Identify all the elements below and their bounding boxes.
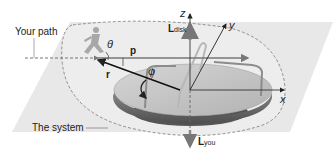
x-axis-label: x	[280, 94, 286, 105]
theta-label: θ	[107, 39, 113, 50]
angular-momentum-diagram: Your path The system θ φ p r Ldisk Lyou …	[0, 0, 333, 154]
phi-label: φ	[148, 66, 155, 77]
L-you-label: Lyou	[198, 137, 215, 147]
L-disk-sub: disk	[174, 26, 186, 33]
r-vector-label: r	[106, 70, 110, 80]
y-axis-label: y	[229, 20, 235, 31]
your-path-label: Your path	[15, 27, 57, 37]
L-you-sub: you	[204, 139, 215, 146]
p-vector-label: p	[130, 46, 136, 56]
the-system-label: The system	[32, 123, 84, 133]
z-axis-label: z	[180, 8, 186, 19]
L-disk-label: Ldisk	[168, 24, 187, 34]
